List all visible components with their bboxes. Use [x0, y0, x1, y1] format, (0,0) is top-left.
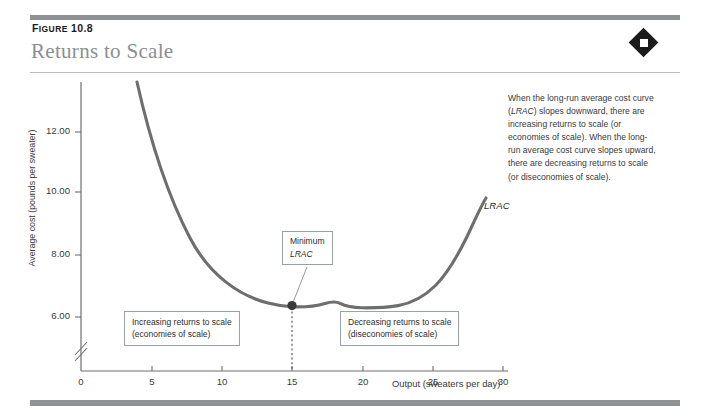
increasing-returns-annotation: Increasing returns to scale (economies o…: [124, 311, 240, 346]
increasing-returns-line-1: Increasing returns to scale: [132, 317, 232, 327]
footer-rule: [30, 400, 680, 406]
x-tick-label-15: 15: [277, 376, 307, 387]
minimum-point-marker: [287, 301, 296, 310]
lrac-chart: [0, 0, 701, 417]
lrac-curve-label: LRAC: [484, 200, 510, 211]
decreasing-returns-line-1: Decreasing returns to scale: [348, 317, 451, 327]
decreasing-returns-line-2: (diseconomies of scale): [348, 329, 437, 339]
decreasing-returns-annotation: Decreasing returns to scale (diseconomie…: [340, 311, 459, 346]
x-tick-label-5: 5: [137, 376, 167, 387]
x-axis-title: Output (sweaters per day): [392, 378, 500, 389]
minimum-leader-line: [292, 267, 307, 305]
minimum-callout-line-2: LRAC: [290, 249, 313, 259]
x-tick-label-0: 0: [66, 376, 96, 387]
increasing-returns-line-2: (economies of scale): [132, 329, 210, 339]
y-axis-title: Average cost (pounds per sweater): [27, 103, 37, 293]
y-axis-ticks: [75, 132, 81, 317]
lrac-curve: [137, 82, 486, 308]
x-tick-label-10: 10: [207, 376, 237, 387]
y-tick-label-6: 6.00: [24, 310, 70, 321]
minimum-callout-line-1: Minimum: [290, 236, 324, 246]
x-axis-ticks: [152, 366, 503, 371]
chart-plot-area: 12.00 10.00 8.00 6.00 0 5 10 15 20 25 30…: [0, 0, 701, 417]
x-tick-label-20: 20: [348, 376, 378, 387]
minimum-lrac-callout: Minimum LRAC: [282, 231, 333, 265]
